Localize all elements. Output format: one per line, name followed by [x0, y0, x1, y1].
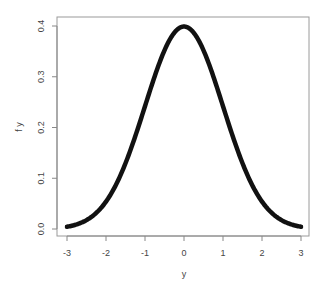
- y-tick-label: 0.3: [36, 70, 46, 83]
- x-tick-label: 3: [298, 248, 303, 258]
- x-axis: -3-2-10123: [63, 236, 304, 258]
- y-tick-label: 0.0: [36, 223, 46, 236]
- x-tick-label: -2: [102, 248, 110, 258]
- y-axis: 0.00.10.20.30.4: [36, 20, 57, 236]
- y-tick-label: 0.2: [36, 121, 46, 134]
- y-tick-label: 0.4: [36, 20, 46, 33]
- x-tick-label: 0: [181, 248, 186, 258]
- x-tick-label: 2: [259, 248, 264, 258]
- x-tick-label: -3: [63, 248, 71, 258]
- x-tick-label: 1: [220, 248, 225, 258]
- density-plot: -3-2-10123 0.00.10.20.30.4 y f y: [0, 0, 329, 297]
- density-curve: [67, 27, 301, 227]
- x-tick-label: -1: [141, 248, 149, 258]
- y-axis-label: f y: [14, 122, 24, 132]
- plot-box: [57, 17, 309, 236]
- y-tick-label: 0.1: [36, 172, 46, 185]
- x-axis-label: y: [182, 269, 187, 279]
